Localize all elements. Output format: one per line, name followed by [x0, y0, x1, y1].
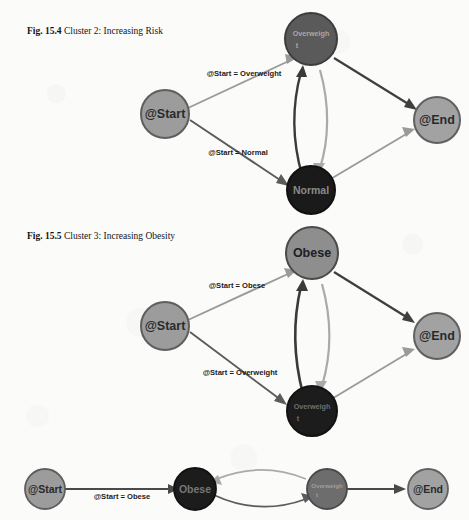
node-overweight[interactable]: Overweigh t — [287, 386, 337, 436]
node-overweight[interactable]: Overweigh t — [307, 469, 347, 509]
node-start[interactable]: @Start — [141, 90, 189, 138]
edge-overweight-to-obese — [210, 470, 306, 485]
node-label-end: @End — [419, 113, 455, 127]
diagram-bottom-linear-sequence: @Start = Obese @Start Obese Overweigh t … — [18, 455, 458, 520]
edge-label-start-obese: @Start = Obese — [94, 492, 151, 501]
edge-label-start-overweight: @Start = Overweight — [207, 69, 282, 78]
node-end[interactable]: @End — [414, 97, 460, 143]
node-label-start: @Start — [145, 319, 187, 333]
edge-label-start-obese: @Start = Obese — [209, 281, 266, 290]
edge-obese-to-overweight — [214, 493, 313, 507]
node-label-start: @Start — [28, 483, 63, 495]
edge-label-start-overweight: @Start = Overweight — [203, 368, 278, 377]
edge-start-to-overweight — [188, 54, 298, 108]
node-label-overweight: Overweigh — [294, 402, 331, 411]
edge-start-to-obese — [188, 268, 297, 320]
node-label-overweight: Overweigh — [311, 482, 343, 489]
node-end[interactable]: @End — [414, 313, 460, 359]
figure-number-15-5: Fig. 15.5 — [27, 231, 62, 241]
node-label-obese: Obese — [293, 246, 331, 260]
edge-obese-to-overweight — [315, 284, 329, 393]
node-normal[interactable]: Normal — [287, 166, 335, 214]
node-label-overweight: Overweigh — [293, 29, 330, 38]
scanned-book-page: Fig. 15.4 Cluster 2: Increasing Risk — [0, 0, 469, 520]
edge-label-start-normal: @Start = Normal — [208, 148, 268, 157]
edge-overweight-to-obese — [295, 279, 308, 394]
edge-normal-to-end — [329, 127, 415, 180]
node-obese[interactable]: Obese — [286, 227, 338, 279]
node-label-normal: Normal — [293, 184, 329, 196]
node-label-end: @End — [419, 329, 455, 343]
edge-normal-to-overweight — [294, 65, 307, 175]
node-start[interactable]: @Start — [141, 302, 189, 350]
node-obese[interactable]: Obese — [174, 468, 216, 510]
node-label-start: @Start — [145, 107, 187, 121]
edge-obese-to-end — [334, 272, 415, 323]
node-overweight[interactable]: Overweigh t — [285, 13, 337, 65]
diagram-cluster-3-increasing-obesity: @Start = Obese @Start = Overweight @Star… — [140, 228, 469, 443]
edge-overweight-to-end — [334, 58, 417, 110]
node-label-overweight-wrap: t — [316, 491, 318, 498]
node-label-end: @End — [413, 483, 443, 495]
node-label-obese: Obese — [179, 483, 211, 495]
figure-number-15-4: Fig. 15.4 — [27, 26, 62, 36]
edge-overweight-to-end — [330, 347, 415, 400]
edge-overweight-to-end — [347, 484, 406, 494]
node-end[interactable]: @End — [408, 469, 448, 509]
node-start[interactable]: @Start — [25, 469, 65, 509]
diagram-cluster-2-increasing-risk: @Start = Overweight @Start = Normal @Sta… — [140, 10, 469, 210]
edge-overweight-to-normal — [313, 70, 327, 175]
